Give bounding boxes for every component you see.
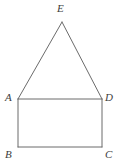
vertex-label-E: E: [57, 3, 64, 14]
figure-canvas: [0, 0, 120, 167]
vertex-label-B: B: [5, 149, 12, 160]
segment-ED: [62, 22, 102, 99]
vertex-label-A: A: [5, 92, 12, 103]
vertex-label-D: D: [105, 92, 113, 103]
vertex-label-C: C: [105, 149, 112, 160]
segment-AE: [18, 22, 62, 99]
geometry-figure: E A D B C: [0, 0, 120, 167]
